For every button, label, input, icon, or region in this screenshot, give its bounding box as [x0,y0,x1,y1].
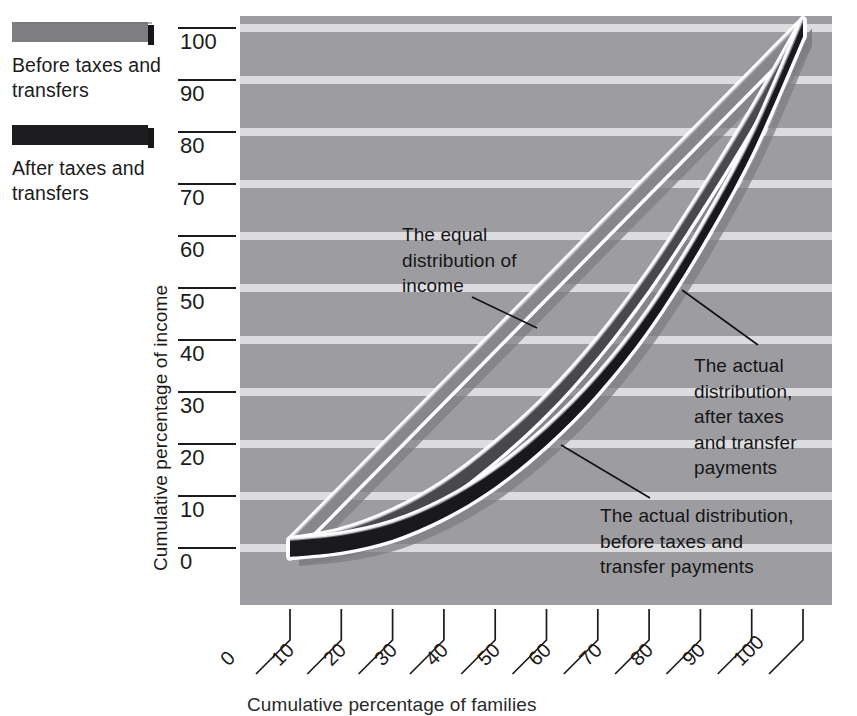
annotation-before-taxes: The actual distribution, before taxes an… [600,503,794,580]
annotation-equal-distribution: The equal distribution of income [402,222,517,299]
gridline [240,24,832,32]
gridline [240,232,832,240]
lorenz-curve-figure: Before taxes and transfers After taxes a… [0,0,857,716]
annotation-after-taxes: The actual distribution, after taxes and… [694,353,797,481]
gridline [240,336,832,344]
